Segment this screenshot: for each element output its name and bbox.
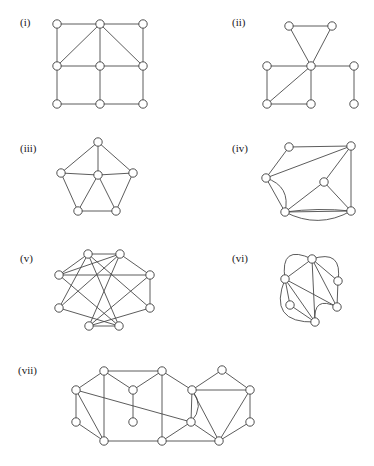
panel-label-i: (i) <box>20 16 31 29</box>
graph-panel-iv <box>262 142 355 221</box>
graph-edge <box>133 371 162 390</box>
graph-edge <box>116 173 133 211</box>
graph-vertex <box>350 100 358 108</box>
panel-label-ii: (ii) <box>232 16 246 29</box>
graph-edge <box>285 259 312 279</box>
edges-group-v <box>59 254 150 326</box>
graph-vertex <box>112 207 120 215</box>
graph-panel-vi <box>280 254 342 326</box>
graph-vertex <box>328 22 336 30</box>
graph-vertex <box>100 437 108 445</box>
graph-vertex <box>347 207 355 215</box>
graph-edge <box>76 390 104 441</box>
graph-edge <box>78 175 98 211</box>
graph-edge <box>267 66 311 104</box>
graph-figure: (i)(ii)(iii)(iv)(v)(vi)(vii) <box>0 0 374 466</box>
graph-edge <box>222 370 250 390</box>
graph-panel-ii <box>263 22 358 108</box>
graph-edge <box>266 178 285 212</box>
graph-vertex <box>146 271 154 279</box>
graph-edge <box>312 259 338 281</box>
graph-edge <box>162 422 191 441</box>
graph-vertex <box>139 62 147 70</box>
graph-edge <box>76 422 104 441</box>
graph-vertex <box>308 255 316 263</box>
graph-edge <box>98 175 116 211</box>
graph-vertex <box>285 143 293 151</box>
graph-vertex <box>129 386 137 394</box>
graph-svg-canvas: (i)(ii)(iii)(iv)(v)(vi)(vii) <box>0 0 374 466</box>
graph-edge <box>289 146 351 147</box>
graph-edge-curved <box>285 211 351 221</box>
graph-edge <box>104 371 133 390</box>
graph-edge <box>162 371 192 390</box>
vertices-group-vi <box>281 255 342 326</box>
graph-vertex <box>286 301 294 309</box>
graph-edge <box>57 24 100 66</box>
graph-vertex <box>115 322 123 330</box>
graph-vertex <box>139 20 147 28</box>
graph-vertex <box>96 62 104 70</box>
graph-panel-vii <box>72 366 254 445</box>
panel-label-iv: (iv) <box>232 142 248 155</box>
vertices-group-iv <box>262 142 355 216</box>
graph-edge <box>324 182 351 211</box>
graph-panel-iii <box>57 138 137 215</box>
graph-edge <box>100 24 143 66</box>
graph-edge <box>59 254 88 275</box>
graph-vertex <box>72 418 80 426</box>
graph-edge <box>312 259 315 322</box>
graph-vertex <box>246 418 254 426</box>
graph-vertex <box>158 437 166 445</box>
graph-vertex <box>215 437 223 445</box>
graph-vertex <box>72 386 80 394</box>
graph-vertex <box>129 418 137 426</box>
graph-vertex <box>53 20 61 28</box>
graph-vertex <box>53 62 61 70</box>
graph-vertex <box>100 367 108 375</box>
graph-vertex <box>311 318 319 326</box>
panels-layer <box>53 20 358 445</box>
graph-edge <box>59 254 88 308</box>
graph-vertex <box>320 178 328 186</box>
panel-label-iii: (iii) <box>20 142 37 155</box>
graph-vertex <box>158 367 166 375</box>
graph-edge <box>285 182 324 212</box>
graph-vertex <box>333 303 341 311</box>
graph-vertex <box>262 174 270 182</box>
graph-edge <box>76 371 104 390</box>
graph-vertex <box>307 100 315 108</box>
graph-vertex <box>281 275 289 283</box>
graph-edge <box>192 370 222 390</box>
graph-vertex <box>57 169 65 177</box>
panel-label-vii: (vii) <box>18 364 37 377</box>
graph-vertex <box>281 208 289 216</box>
graph-edge <box>191 390 192 422</box>
graph-edge <box>76 390 191 422</box>
graph-vertex <box>74 207 82 215</box>
graph-edge <box>61 142 98 173</box>
graph-vertex <box>334 277 342 285</box>
graph-edge <box>191 422 219 441</box>
graph-vertex <box>347 142 355 150</box>
graph-vertex <box>53 100 61 108</box>
graph-vertex <box>218 366 226 374</box>
graph-vertex <box>350 62 358 70</box>
graph-vertex <box>285 22 293 30</box>
graph-edge <box>59 254 120 308</box>
graph-vertex <box>307 62 315 70</box>
panel-label-vi: (vi) <box>232 252 248 265</box>
graph-vertex <box>116 250 124 258</box>
graph-edge <box>98 142 133 173</box>
graph-vertex <box>188 386 196 394</box>
edges-group-vi <box>280 254 339 322</box>
graph-vertex <box>85 322 93 330</box>
graph-edge <box>219 390 250 441</box>
graph-vertex <box>94 171 102 179</box>
graph-edge <box>61 173 78 211</box>
graph-vertex <box>96 100 104 108</box>
graph-edge <box>61 173 98 175</box>
graph-edge <box>98 173 133 175</box>
graph-edge <box>289 26 311 66</box>
graph-vertex <box>96 20 104 28</box>
